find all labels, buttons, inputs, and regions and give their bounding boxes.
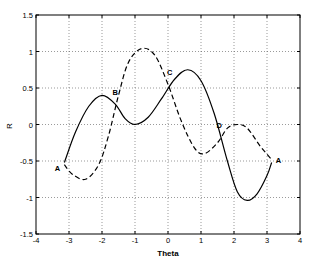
x-tick-label: -1 (132, 236, 139, 245)
x-tick-label: 3 (265, 236, 269, 245)
annotation-label: A (276, 156, 282, 165)
x-tick-label: 0 (166, 236, 170, 245)
grid-lines (36, 15, 300, 234)
x-tick-label: 4 (298, 236, 302, 245)
x-tick-label: 2 (232, 236, 236, 245)
x-tick-label: -2 (99, 236, 106, 245)
annotation-label: C (167, 68, 173, 77)
y-tick-label: 1.5 (23, 11, 33, 20)
x-tick-label: 1 (199, 236, 203, 245)
annotation-label: B (112, 88, 118, 97)
y-axis-label: R (5, 123, 14, 129)
annotation-label: A (55, 164, 61, 173)
axis-ticks: -4-3-2-101234-1.5-1-0.500.511.5 (20, 11, 302, 245)
y-tick-label: 1 (29, 48, 33, 57)
y-tick-label: 0 (29, 121, 33, 130)
line-chart: -4-3-2-101234-1.5-1-0.500.511.5 ABCDA Th… (0, 0, 312, 259)
y-tick-label: -1 (26, 194, 33, 203)
annotation-label: D (216, 121, 222, 130)
x-tick-label: -3 (66, 236, 73, 245)
y-tick-label: 0.5 (23, 84, 33, 93)
x-tick-label: -4 (33, 236, 40, 245)
x-axis-label: Theta (157, 249, 179, 258)
y-tick-label: -1.5 (20, 230, 33, 239)
y-tick-label: -0.5 (20, 157, 33, 166)
